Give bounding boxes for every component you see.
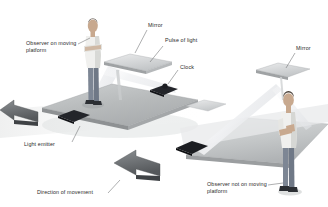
person-left-leg-right xyxy=(283,146,288,188)
physics-diagram: Observer on moving platform Mirror Pulse… xyxy=(0,0,328,207)
label-pulse-of-light: Pulse of light xyxy=(165,37,197,44)
leader-direction-of-movement xyxy=(108,180,120,193)
leader-mirror-top xyxy=(135,30,147,53)
person-right-leg-left xyxy=(94,66,100,102)
label-mirror-right: Mirror xyxy=(296,45,311,52)
person-right-shoe-right xyxy=(288,187,298,192)
right-scene-rest-frame xyxy=(176,53,328,195)
label-observer-not-on-moving-platform: Observer not on moving platform xyxy=(207,181,269,195)
person-neck-right xyxy=(286,106,291,113)
label-light-emitter: Light emitter xyxy=(24,141,55,148)
person-head-left xyxy=(88,20,98,33)
leader-observer-not-moving xyxy=(268,183,283,185)
person-right-shoe-left xyxy=(93,101,102,105)
label-direction-of-movement: Direction of movement xyxy=(37,189,93,196)
label-observer-on-moving-platform: Observer on moving platform xyxy=(26,40,82,54)
arrow-shape-bottom-left xyxy=(114,150,160,176)
label-clock: Clock xyxy=(180,64,194,71)
person-torso-shade-left xyxy=(95,36,101,68)
person-right-leg-right xyxy=(289,146,295,189)
diagram-graphics xyxy=(0,0,328,207)
leader-clock xyxy=(168,70,178,84)
label-mirror-top: Mirror xyxy=(148,22,163,29)
clock-dial-left xyxy=(162,83,167,88)
arrow-thickness-bottom-left xyxy=(136,175,160,181)
person-head-right xyxy=(283,93,294,107)
person-left-leg-left xyxy=(88,66,94,101)
mirror-plate-right xyxy=(256,63,310,77)
direction-arrow-bottom-left xyxy=(114,150,160,181)
